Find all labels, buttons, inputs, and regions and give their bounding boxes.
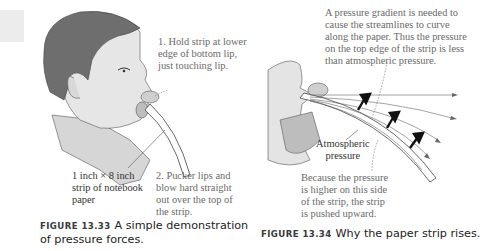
strip-size-label: 1 inch × 8 inch strip of notebook paper xyxy=(72,170,143,206)
step-2-label: 2. Pucker lips and blow hard straight ou… xyxy=(156,170,233,218)
figure-13-34-caption: FIGURE 13.34Why the paper strip rises. xyxy=(261,227,480,241)
figure-number: FIGURE 13.34 xyxy=(261,229,332,239)
higher-pressure-note: Because the pressure is higher on this s… xyxy=(301,172,388,220)
caption-text: Why the paper strip rises. xyxy=(336,227,481,240)
pressure-gradient-note: A pressure gradient is needed to cause t… xyxy=(325,7,467,67)
atmospheric-pressure-label: Atmospheric pressure xyxy=(316,138,370,162)
figure-number: FIGURE 13.33 xyxy=(40,221,111,231)
figure-13-33-caption: FIGURE 13.33A simple demonstration of pr… xyxy=(40,219,250,246)
step-1-label: 1. Hold strip at lower edge of bottom li… xyxy=(158,36,247,72)
